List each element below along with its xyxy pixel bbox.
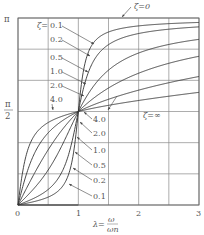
phase-angle-chart: π π 2 0 1 2 3 λ= ω ωn ζ= 0.1 0.2 0.5 1.0…	[0, 0, 204, 235]
svg-text:1.0: 1.0	[50, 67, 63, 76]
svg-text:0.1: 0.1	[93, 192, 106, 201]
svg-text:ζ=: ζ=	[37, 21, 48, 30]
svg-text:2.0: 2.0	[93, 129, 106, 138]
zeta-infinity-label: ζ=∞	[143, 111, 161, 120]
svg-text:2.0: 2.0	[50, 81, 63, 90]
svg-text:0.1: 0.1	[50, 21, 63, 30]
x-axis-label: λ= ω ωn	[92, 215, 119, 234]
svg-text:0.2: 0.2	[50, 35, 63, 44]
y-tick-pi: π	[4, 14, 10, 24]
zeta-zero-label: ζ=0	[134, 2, 150, 11]
x-tick-1: 1	[76, 209, 81, 218]
svg-text:ω: ω	[108, 215, 115, 224]
x-tick-0: 0	[15, 209, 20, 218]
y-tick-half-pi-num: π	[5, 99, 11, 109]
svg-text:0.2: 0.2	[93, 176, 106, 185]
svg-text:0.5: 0.5	[93, 161, 106, 170]
svg-text:ωn: ωn	[107, 225, 119, 234]
svg-text:λ=: λ=	[92, 220, 105, 229]
svg-text:1.0: 1.0	[93, 146, 106, 155]
lower-zeta-labels: 4.0 2.0 1.0 0.5 0.2 0.1	[93, 115, 106, 201]
upper-zeta-labels: ζ= 0.1 0.2 0.5 1.0 2.0 4.0	[37, 21, 63, 104]
x-tick-2: 2	[136, 209, 141, 218]
x-tick-3: 3	[196, 209, 201, 218]
label-leaders	[51, 7, 131, 196]
svg-text:4.0: 4.0	[93, 115, 106, 124]
svg-text:0.5: 0.5	[50, 53, 63, 62]
svg-text:4.0: 4.0	[50, 95, 63, 104]
grid	[18, 18, 199, 205]
y-tick-half-pi: π 2	[4, 99, 13, 121]
y-tick-half-pi-den: 2	[5, 111, 10, 121]
